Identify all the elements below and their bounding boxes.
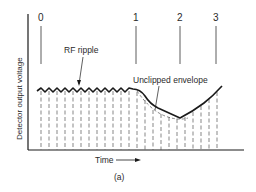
rf-ripple-label: RF ripple bbox=[64, 45, 99, 55]
marker-label-3: 3 bbox=[213, 12, 219, 23]
figure-caption: (a) bbox=[114, 172, 125, 182]
x-axis-label: Time bbox=[95, 155, 114, 165]
marker-label-1: 1 bbox=[133, 12, 139, 23]
marker-label-2: 2 bbox=[177, 12, 183, 23]
sample-dashed-lines bbox=[41, 91, 217, 150]
unclipped-envelope-label: Unclipped envelope bbox=[133, 75, 208, 85]
rf-ripple-arrowhead bbox=[77, 80, 81, 86]
marker-label-0: 0 bbox=[38, 12, 44, 23]
rf-ripple-arrow bbox=[79, 57, 83, 84]
time-arrowhead bbox=[135, 158, 141, 162]
y-axis-label: Detector output voltage bbox=[15, 57, 24, 140]
detector-output-diagram: Detector output voltage 0 1 2 3 bbox=[0, 0, 256, 192]
unclipped-envelope-arrow bbox=[155, 86, 159, 110]
